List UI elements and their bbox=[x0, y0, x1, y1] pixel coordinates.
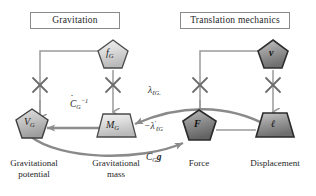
header-box-gravitation: Gravitation bbox=[30, 12, 120, 29]
caption-gravitational-potential: Gravitational potential bbox=[0, 158, 68, 179]
node-mg[interactable] bbox=[97, 114, 136, 137]
caption-force: Force bbox=[172, 158, 226, 169]
diagram-canvas: Gravitation Translation mechanics fG v V… bbox=[0, 0, 316, 196]
caption-displacement: Displacement bbox=[236, 158, 314, 169]
caption-gravitational-mass: Gravitational mass bbox=[80, 158, 152, 179]
node-l[interactable] bbox=[256, 113, 294, 137]
node-vg[interactable] bbox=[16, 109, 48, 138]
node-v[interactable] bbox=[258, 40, 288, 68]
node-fg[interactable] bbox=[98, 40, 128, 68]
edge-label-lambda-lg: λℓG. bbox=[148, 85, 161, 96]
header-box-translation-mechanics: Translation mechanics bbox=[180, 12, 290, 29]
edge-label-c-inverse: ˆ CG−1 bbox=[70, 97, 88, 110]
edge-label-neg-lambda-prime-lg: −λ′ℓG bbox=[144, 119, 163, 132]
node-f[interactable] bbox=[183, 110, 216, 140]
